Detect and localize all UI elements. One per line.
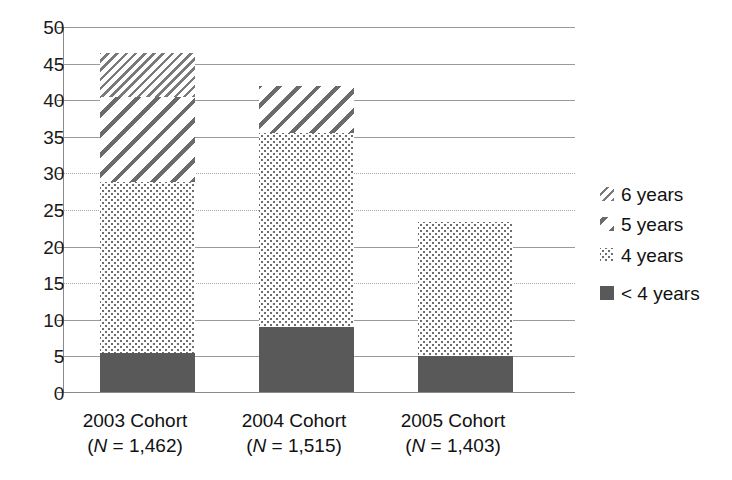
bar-segment-2003-under-4-years[interactable] [100, 353, 195, 393]
category-n-value-2003: = 1,462 [107, 435, 176, 456]
bar-segment-2004-under-4-years[interactable] [259, 327, 354, 393]
category-label-2004-cohort: 2004 Cohort (N = 1,515) [209, 408, 379, 458]
legend-item-4-years[interactable]: 4 years [600, 244, 683, 266]
legend-swatch-4-years-icon [600, 248, 614, 262]
bar-series-container [63, 27, 575, 393]
y-tick-label-15: 15 [43, 274, 64, 293]
x-axis-line [63, 392, 575, 393]
legend-label-6-years: 6 years [621, 185, 683, 204]
y-tick-label-0: 0 [54, 384, 64, 403]
category-n-symbol-2003: N [94, 435, 108, 456]
bar-segment-2003-6-years[interactable] [100, 53, 195, 97]
bar-segment-2005-under-4-years[interactable] [418, 356, 513, 393]
chart-figure: 50 45 40 35 30 25 20 15 10 5 0 2003 Coho… [0, 0, 732, 480]
y-tick-label-25: 25 [43, 201, 64, 220]
bar-group-2004-cohort[interactable] [259, 86, 354, 393]
bar-segment-2003-4-years[interactable] [100, 182, 195, 353]
category-label-2004-line2: (N = 1,515) [209, 433, 379, 458]
category-label-2004-line1: 2004 Cohort [242, 410, 347, 431]
legend-swatch-5-years-icon [600, 217, 614, 231]
bar-segment-2005-4-years[interactable] [418, 222, 513, 357]
bar-group-2003-cohort[interactable] [100, 53, 195, 393]
category-n-value-2004: = 1,515 [266, 435, 335, 456]
legend-label-under-4-years: < 4 years [621, 284, 700, 303]
category-label-2003-cohort: 2003 Cohort (N = 1,462) [50, 408, 220, 458]
legend-label-5-years: 5 years [621, 215, 683, 234]
y-tick-label-20: 20 [43, 237, 64, 256]
y-tick-label-40: 40 [43, 91, 64, 110]
legend-item-5-years[interactable]: 5 years [600, 213, 683, 235]
category-label-2005-cohort: 2005 Cohort (N = 1,403) [368, 408, 538, 458]
category-n-symbol-2004: N [253, 435, 267, 456]
legend-swatch-6-years-icon [600, 187, 614, 201]
y-tick-label-10: 10 [43, 310, 64, 329]
category-label-2003-line2: (N = 1,462) [50, 433, 220, 458]
y-tick-label-35: 35 [43, 127, 64, 146]
category-label-2003-line1: 2003 Cohort [83, 410, 188, 431]
bar-group-2005-cohort[interactable] [418, 222, 513, 393]
y-tick-label-45: 45 [43, 54, 64, 73]
bar-segment-2004-4-years[interactable] [259, 133, 354, 327]
bar-segment-2004-5-years[interactable] [259, 86, 354, 134]
legend-item-under-4-years[interactable]: < 4 years [600, 282, 700, 304]
y-tick-label-5: 5 [54, 347, 64, 366]
bar-segment-2003-5-years[interactable] [100, 97, 195, 183]
legend-swatch-under-4-years-icon [600, 286, 614, 300]
plot-area [63, 27, 575, 393]
category-n-symbol-2005: N [412, 435, 426, 456]
legend-item-6-years[interactable]: 6 years [600, 183, 683, 205]
legend-label-4-years: 4 years [621, 246, 683, 265]
y-tick-label-50: 50 [43, 18, 64, 37]
y-tick-label-30: 30 [43, 164, 64, 183]
category-n-value-2005: = 1,403 [425, 435, 494, 456]
category-label-2005-line1: 2005 Cohort [401, 410, 506, 431]
category-label-2005-line2: (N = 1,403) [368, 433, 538, 458]
